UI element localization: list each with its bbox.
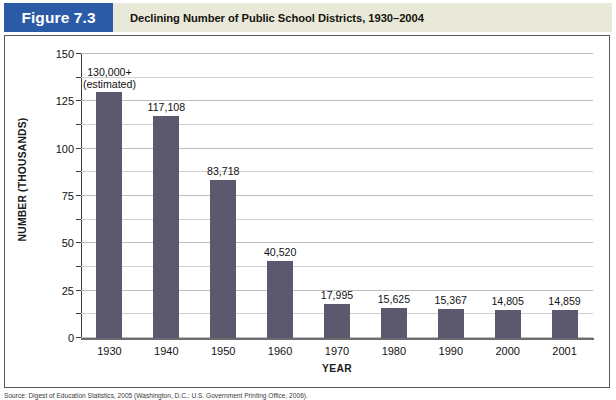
- y-tick-label: 150: [56, 48, 74, 60]
- x-tick-label: 1960: [268, 345, 292, 357]
- figure-header: Figure 7.3 Declining Number of Public Sc…: [4, 3, 612, 32]
- y-tick-mark: [76, 313, 81, 314]
- y-tick-mark: [76, 100, 81, 101]
- x-tick-label: 1970: [325, 345, 349, 357]
- bar: 14,8052000: [495, 310, 521, 338]
- y-tick-label: 100: [56, 143, 74, 155]
- x-tick-label: 2000: [495, 345, 519, 357]
- y-tick-mark: [76, 77, 81, 78]
- x-tick-label: 2001: [552, 345, 576, 357]
- source-note: Source: Digest of Education Statistics, …: [4, 392, 604, 400]
- x-tick-label: 1930: [97, 345, 121, 357]
- y-tick-mark: [76, 337, 81, 338]
- y-tick-mark: [76, 53, 81, 54]
- plot-area: 0255075100125150 130,000+(estimated)1930…: [81, 54, 593, 338]
- y-tick-mark: [76, 148, 81, 149]
- y-tick-mark: [76, 195, 81, 196]
- bar: 40,5201960: [267, 261, 293, 338]
- bar: 15,6251980: [381, 308, 407, 338]
- bar: 83,7181950: [210, 180, 236, 339]
- figure-title: Declining Number of Public School Distri…: [113, 3, 612, 32]
- y-tick-label: 0: [68, 332, 74, 344]
- y-tick-mark: [76, 266, 81, 267]
- x-axis-title: YEAR: [81, 363, 593, 374]
- bar-value-label: 130,000+(estimated): [83, 66, 136, 90]
- bar: 17,9951970: [324, 304, 350, 338]
- bar: 14,8592001: [552, 310, 578, 338]
- x-axis-line: [81, 338, 594, 340]
- bar-value-label: 15,625: [378, 293, 410, 305]
- bar-value-label: 15,367: [435, 294, 467, 306]
- figure-number-badge: Figure 7.3: [4, 3, 113, 32]
- y-tick-mark: [76, 124, 81, 125]
- gridline-minor: [81, 77, 593, 78]
- bar: 130,000+(estimated)1930: [96, 92, 122, 338]
- y-tick-label: 75: [62, 190, 74, 202]
- y-tick-mark: [76, 290, 81, 291]
- y-tick-mark: [76, 171, 81, 172]
- y-tick-label: 125: [56, 95, 74, 107]
- bar-value-label: 17,995: [321, 289, 353, 301]
- y-tick-mark: [76, 219, 81, 220]
- x-tick-label: 1980: [382, 345, 406, 357]
- bar-value-label: 40,520: [264, 246, 296, 258]
- chart-panel: NUMBER (THOUSANDS) 0255075100125150 130,…: [4, 35, 610, 388]
- y-tick-label: 50: [62, 237, 74, 249]
- bar: 117,1081940: [153, 116, 179, 338]
- y-tick-mark: [76, 242, 81, 243]
- bar-value-label: 14,859: [548, 295, 580, 307]
- bar-value-label: 117,108: [148, 101, 186, 113]
- x-tick-label: 1990: [439, 345, 463, 357]
- gridline-major: [81, 53, 593, 54]
- bar-value-label: 83,718: [207, 165, 239, 177]
- y-axis-title: NUMBER (THOUSANDS): [17, 100, 28, 260]
- figure-number-label: Figure 7.3: [21, 9, 95, 27]
- bar-value-label: 14,805: [491, 295, 523, 307]
- x-tick-label: 1950: [211, 345, 235, 357]
- x-tick-label: 1940: [154, 345, 178, 357]
- bar: 15,3671990: [438, 309, 464, 338]
- y-tick-label: 25: [62, 285, 74, 297]
